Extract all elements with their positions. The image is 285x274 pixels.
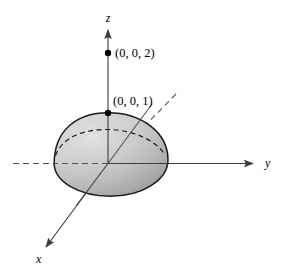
point-label-001: (0, 0, 1) <box>113 94 153 108</box>
z-axis-label: z <box>105 11 111 25</box>
figure-canvas: z y x (0, 0, 2) (0, 0, 1) <box>0 0 285 274</box>
y-axis-label: y <box>264 156 271 170</box>
x-axis-label: x <box>35 252 42 266</box>
coordinate-axes-diagram: z y x (0, 0, 2) (0, 0, 1) <box>0 0 285 274</box>
hemisphere-surface <box>54 113 168 196</box>
point-marker-002 <box>105 50 111 56</box>
point-label-002: (0, 0, 2) <box>115 46 155 60</box>
point-marker-001 <box>105 110 111 116</box>
